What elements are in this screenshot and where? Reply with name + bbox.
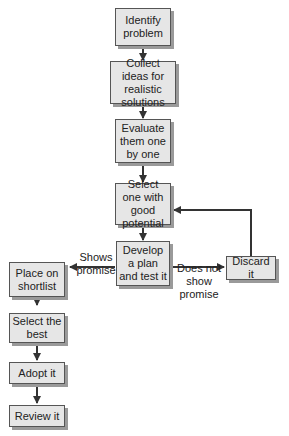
node-evaluate: Evaluate them one by one <box>115 119 171 163</box>
node-select-best: Select the best <box>9 313 65 343</box>
node-identify-problem: Identify problem <box>115 8 171 46</box>
node-review: Review it <box>9 405 65 427</box>
node-collect-ideas: Collect ideas for realistic solutions <box>110 61 176 104</box>
node-place-on-shortlist: Place on shortlist <box>9 262 65 297</box>
node-discard: Discard it <box>226 256 276 280</box>
edge-label-shows-promise: Shows promise <box>76 251 116 277</box>
node-adopt: Adopt it <box>9 362 65 384</box>
node-develop-plan: Develop a plan and test it <box>116 241 170 286</box>
node-select-one: Select one with good potential <box>115 183 171 225</box>
edge-label-does-not-show-promise: Does not show promise <box>176 262 222 301</box>
